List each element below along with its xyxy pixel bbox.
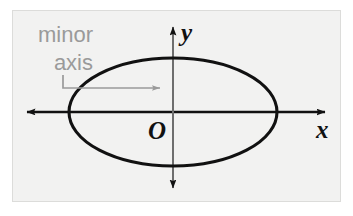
minor-axis-label-line2: axis <box>54 50 93 75</box>
minor-axis-label-line1: minor <box>38 22 93 47</box>
minor-axis-arrow <box>63 75 160 88</box>
ellipse-diagram: y x O minor axis <box>0 0 353 216</box>
minor-axis-leader-line <box>63 75 160 88</box>
origin-label: O <box>148 117 166 144</box>
x-axis-label: x <box>315 116 329 143</box>
figure-root: y x O minor axis <box>0 0 353 216</box>
y-axis-label: y <box>178 19 193 46</box>
